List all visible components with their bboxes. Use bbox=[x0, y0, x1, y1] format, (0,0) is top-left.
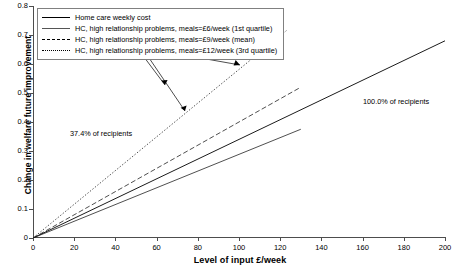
y-tick-label: 0.6 bbox=[18, 60, 28, 68]
x-tick-label: 180 bbox=[398, 244, 411, 252]
legend-label: HC, high relationship problems, meals=£9… bbox=[75, 36, 255, 44]
y-tick-label: 0.2 bbox=[18, 176, 28, 184]
legend-label: HC, high relationship problems, meals=£6… bbox=[75, 25, 272, 33]
annotation-right: 100.0% of recipients bbox=[363, 98, 429, 106]
y-tick-label: 0.5 bbox=[18, 89, 28, 97]
x-tick-label: 160 bbox=[356, 244, 369, 252]
annotation-left: 37.4% of recipients bbox=[70, 130, 132, 138]
legend-label: HC, high relationship problems, meals=£1… bbox=[75, 47, 277, 55]
x-tick-label: 20 bbox=[70, 244, 78, 252]
x-tick-label: 200 bbox=[439, 244, 452, 252]
legend-swatch-icon bbox=[42, 25, 70, 33]
legend-item: HC, high relationship problems, meals=£1… bbox=[42, 45, 277, 56]
y-tick-label: 0.3 bbox=[18, 147, 28, 155]
x-tick-label: 40 bbox=[111, 244, 119, 252]
x-tick-label: 80 bbox=[194, 244, 202, 252]
chart-legend: Home care weekly costHC, high relationsh… bbox=[37, 8, 284, 60]
legend-swatch-icon bbox=[42, 36, 70, 44]
x-tick-label: 140 bbox=[315, 244, 328, 252]
y-tick-label: 0.1 bbox=[18, 205, 28, 213]
x-tick-label: 0 bbox=[31, 244, 35, 252]
legend-item: HC, high relationship problems, meals=£9… bbox=[42, 34, 277, 45]
legend-swatch-icon bbox=[42, 14, 70, 22]
legend-swatch-icon bbox=[42, 47, 70, 55]
y-tick-label: 0 bbox=[24, 234, 28, 242]
plot-area: 00.10.20.30.40.50.60.70.8 02040608010012… bbox=[33, 6, 445, 238]
x-axis-title: Level of input £/week bbox=[95, 255, 385, 265]
legend-item: Home care weekly cost bbox=[42, 12, 277, 23]
legend-label: Home care weekly cost bbox=[75, 14, 150, 22]
chart-figure: Change in welfare future improvement Lev… bbox=[0, 0, 462, 272]
x-tick bbox=[445, 237, 446, 241]
legend-item: HC, high relationship problems, meals=£6… bbox=[42, 23, 277, 34]
x-tick-label: 120 bbox=[274, 244, 287, 252]
y-tick-label: 0.8 bbox=[18, 2, 28, 10]
x-tick-label: 60 bbox=[152, 244, 160, 252]
y-tick-label: 0.7 bbox=[18, 31, 28, 39]
y-tick-label: 0.4 bbox=[18, 118, 28, 126]
x-tick-label: 100 bbox=[233, 244, 246, 252]
